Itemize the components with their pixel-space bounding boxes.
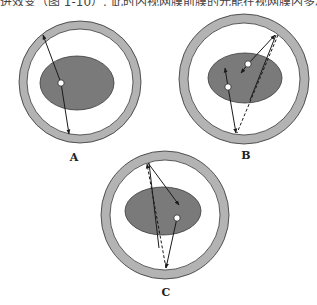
inner-ellipse-c [125,187,201,235]
source-dot-b2 [225,84,231,90]
inner-ellipse-b [208,53,282,103]
diagram-canvas: A B C [0,0,317,305]
source-dot-a [58,80,64,86]
source-dot-c [174,215,180,221]
label-c: C [162,286,171,299]
panel-b: B [179,14,309,162]
source-dot-b1 [245,61,251,67]
panel-a: A [19,21,141,164]
label-a: A [69,151,79,164]
inner-ellipse-a [40,56,114,110]
panel-c: C [101,151,229,299]
label-b: B [241,149,250,162]
